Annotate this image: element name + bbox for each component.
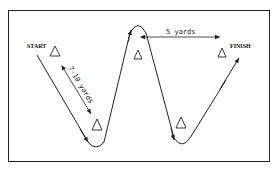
arrow-to-bottom-2: [171, 128, 174, 140]
horizontal-distance-label: 5 yards: [166, 28, 196, 36]
finish-label: FINISH: [230, 43, 251, 49]
running-path: [37, 26, 226, 148]
drill-diagram: 7-10 yards 5 yards START FINISH: [0, 0, 278, 170]
cone-icon: [92, 119, 102, 130]
cone-icon: [134, 50, 142, 59]
arrow-to-bottom-1: [80, 129, 88, 142]
start-label: START: [27, 43, 46, 49]
arrow-to-top-middle: [128, 30, 131, 42]
diagonal-distance-label: 7-10 yards: [66, 65, 95, 105]
cone-icon: [50, 46, 60, 56]
cone-icon: [176, 117, 186, 128]
cone-icon: [218, 48, 226, 57]
arrow-finish: [220, 58, 239, 89]
